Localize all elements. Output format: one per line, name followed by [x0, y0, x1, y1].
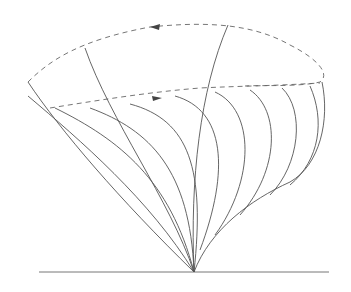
arrow-right-icon	[152, 96, 162, 101]
fan-curve	[85, 48, 194, 272]
fan-curve	[28, 96, 194, 272]
arrow-left-icon	[150, 24, 160, 30]
fan-curve	[90, 108, 194, 272]
fan-curve	[28, 82, 194, 272]
fan-curve	[130, 104, 197, 272]
fan-curve	[193, 25, 228, 272]
envelope-curve	[194, 82, 325, 272]
wavefront-diagram	[0, 0, 351, 292]
fan-curve	[270, 88, 296, 195]
inner-dashed-boundary	[50, 83, 320, 108]
outer-dashed-boundary	[28, 24, 324, 86]
fan-curve	[215, 92, 245, 235]
